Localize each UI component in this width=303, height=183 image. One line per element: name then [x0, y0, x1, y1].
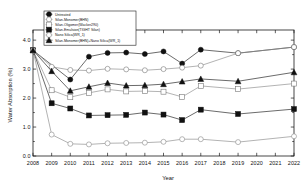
- data-marker: [105, 80, 111, 86]
- legend-label: Silan-Monomer(BHN): [55, 18, 88, 22]
- data-marker: [105, 141, 110, 146]
- data-marker: [47, 22, 52, 27]
- data-marker: [161, 89, 166, 94]
- legend-label: Nano Silica(WR_1): [55, 33, 85, 37]
- legend-item-5: Silan-Monomer(BHN)+Nano Silica(WR_1): [46, 37, 121, 43]
- legend-label: Untreated: [55, 13, 70, 17]
- x-tick-label: 2019: [232, 160, 244, 166]
- data-marker: [180, 137, 185, 142]
- data-marker: [142, 110, 147, 115]
- data-marker: [105, 113, 110, 118]
- data-series-group: [30, 45, 297, 147]
- data-marker: [86, 90, 91, 95]
- data-marker: [198, 107, 203, 112]
- data-marker: [68, 141, 73, 146]
- chart-container: 0.01.02.03.04.02008200920102011201220132…: [0, 0, 303, 183]
- data-marker: [198, 83, 203, 88]
- water-absorption-line-chart: 0.01.02.03.04.02008200920102011201220132…: [0, 0, 303, 183]
- data-marker: [180, 118, 185, 123]
- data-marker: [292, 134, 297, 139]
- data-marker: [291, 69, 297, 75]
- y-tick-label: 3.0: [23, 66, 31, 72]
- data-marker: [124, 112, 129, 117]
- x-tick-label: 2020: [251, 160, 263, 166]
- data-marker: [86, 142, 91, 147]
- x-tick-label: 2010: [64, 160, 76, 166]
- legend-label: Silan-Oligomer(Wacker290): [55, 23, 98, 27]
- data-marker: [124, 89, 129, 94]
- data-marker: [142, 68, 147, 73]
- data-marker: [161, 139, 166, 144]
- x-tick-label: 2013: [120, 160, 132, 166]
- data-marker: [47, 27, 52, 32]
- data-marker: [142, 52, 147, 57]
- data-marker: [49, 101, 54, 106]
- x-tick-label: 2022: [288, 160, 300, 166]
- data-marker: [47, 12, 52, 17]
- series-0: [31, 45, 297, 82]
- data-marker: [161, 49, 166, 54]
- data-marker: [68, 77, 73, 82]
- data-marker: [236, 87, 241, 92]
- data-marker: [86, 68, 91, 73]
- data-marker: [49, 132, 54, 137]
- x-tick-label: 2018: [213, 160, 225, 166]
- data-marker: [142, 89, 147, 94]
- data-marker: [47, 17, 52, 22]
- data-marker: [105, 87, 110, 92]
- data-marker: [86, 54, 91, 59]
- x-axis-title: Year: [162, 175, 174, 181]
- x-tick-label: 2009: [45, 160, 57, 166]
- data-marker: [105, 50, 110, 55]
- data-marker: [124, 140, 129, 145]
- x-tick-label: 2017: [195, 160, 207, 166]
- x-tick-label: 2011: [83, 160, 95, 166]
- y-tick-label: 2.0: [23, 95, 31, 101]
- data-marker: [292, 45, 297, 50]
- data-marker: [161, 67, 166, 72]
- data-marker: [236, 140, 241, 145]
- data-marker: [124, 67, 129, 72]
- y-tick-label: 0.0: [23, 153, 31, 159]
- data-marker: [49, 88, 54, 93]
- data-marker: [68, 95, 73, 100]
- data-marker: [142, 140, 147, 145]
- data-marker: [198, 76, 204, 82]
- data-marker: [180, 94, 185, 99]
- data-marker: [198, 63, 203, 68]
- data-marker: [124, 50, 129, 55]
- x-tick-label: 2014: [139, 160, 151, 166]
- data-marker: [198, 137, 203, 142]
- legend-label: Silan-Monomer(BHN)+Nano Silica(WR_1): [55, 39, 120, 43]
- y-tick-label: 4.0: [23, 37, 31, 43]
- data-marker: [161, 112, 166, 117]
- x-tick-label: 2016: [176, 160, 188, 166]
- data-marker: [86, 113, 91, 118]
- y-tick-label: 1.0: [23, 124, 31, 130]
- chart-legend: UntreatedSilan-Monomer(BHN)Silan-Oligome…: [44, 11, 136, 45]
- legend-item-0: Untreated: [46, 12, 71, 17]
- data-marker: [198, 47, 203, 52]
- x-tick-label: 2012: [101, 160, 113, 166]
- data-marker: [292, 107, 297, 112]
- legend-label: Silan-Emulsion(TIGHT Silan): [55, 28, 100, 32]
- data-marker: [236, 112, 241, 117]
- data-marker: [68, 106, 73, 111]
- x-tick-label: 2021: [269, 160, 281, 166]
- data-marker: [68, 67, 73, 72]
- x-tick-label: 2015: [157, 160, 169, 166]
- data-marker: [292, 81, 297, 86]
- data-marker: [105, 66, 110, 71]
- y-axis-title: Water Absorption (%): [7, 67, 13, 122]
- data-marker: [180, 65, 185, 70]
- x-tick-label: 2008: [27, 160, 39, 166]
- data-marker: [236, 51, 241, 56]
